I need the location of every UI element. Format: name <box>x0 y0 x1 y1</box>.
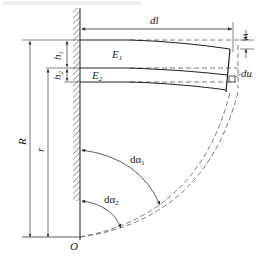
du-label: du <box>241 67 253 79</box>
beam-E1 <box>80 40 230 92</box>
undeformed-outline <box>130 40 250 88</box>
fixed-wall <box>73 8 80 240</box>
center-O-label: O <box>70 240 78 252</box>
dalpha2-angle: dα2 <box>82 193 121 228</box>
bending-arcs <box>80 92 238 237</box>
dalpha2-label: dα2 <box>104 193 119 207</box>
beam-E2 <box>80 82 226 90</box>
dl-label: dl <box>150 14 159 26</box>
r-label: r <box>34 147 46 152</box>
radius-dimensions: R r <box>16 41 80 237</box>
R-label: R <box>16 138 28 146</box>
E1-label: E1 <box>111 48 122 62</box>
w-label: w <box>241 33 253 41</box>
dalpha1-angle: dα1 <box>82 150 160 205</box>
E2-label: E2 <box>91 69 103 83</box>
h2-label: h2 <box>51 71 65 81</box>
du-element <box>229 76 235 82</box>
cropped-caption-text <box>2 1 142 5</box>
h1-label: h1 <box>51 51 65 60</box>
bimetal-beam-bending-diagram: dl du w E1 E2 h1 h2 <box>0 0 270 267</box>
h-dimensions: h1 h2 <box>22 40 80 82</box>
w-dimension: w <box>240 30 254 58</box>
dalpha1-label: dα1 <box>130 153 145 167</box>
